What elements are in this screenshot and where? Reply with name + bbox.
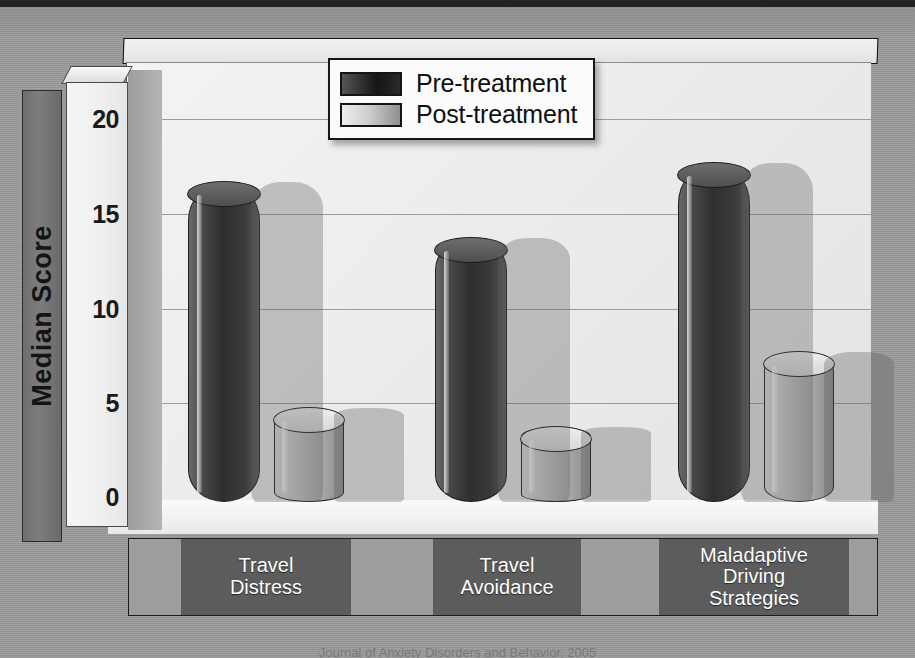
y-axis-title-slab: Median Score bbox=[22, 90, 62, 542]
category-pad bbox=[581, 539, 659, 615]
chart-floor bbox=[108, 500, 878, 534]
category-travel-avoidance[interactable]: Travel Avoidance bbox=[433, 539, 581, 615]
category-maladaptive-driving-strategies[interactable]: Maladaptive Driving Strategies bbox=[659, 539, 849, 615]
category-line-2: Distress bbox=[230, 577, 302, 599]
figure-source-caption: Journal of Anxiety Disorders and Behavio… bbox=[0, 645, 915, 658]
y-tick-20: 20 bbox=[92, 105, 119, 134]
y-tick-10: 10 bbox=[92, 295, 119, 324]
category-line-1: Travel bbox=[460, 555, 553, 577]
bar-chart-3d: 20 15 10 5 0 Median Score bbox=[18, 30, 878, 630]
y-axis-plate: 20 15 10 5 0 bbox=[66, 82, 128, 527]
category-line-3: Strategies bbox=[700, 588, 808, 610]
cylinder-gloss bbox=[687, 176, 693, 493]
category-line-2: Avoidance bbox=[460, 577, 553, 599]
legend-swatch-post-treatment bbox=[340, 103, 402, 127]
category-axis-band: Travel Distress Travel Avoidance Maladap… bbox=[128, 538, 878, 616]
bar-shadow bbox=[824, 352, 894, 502]
category-line-1: Maladaptive bbox=[700, 545, 808, 567]
category-pad bbox=[849, 539, 877, 615]
category-pad bbox=[351, 539, 433, 615]
bar-shadow bbox=[498, 238, 570, 502]
y-tick-0: 0 bbox=[106, 483, 119, 512]
category-line-2: Driving bbox=[700, 566, 808, 588]
legend: Pre-treatment Post-treatment bbox=[328, 58, 595, 140]
legend-label-post-treatment: Post-treatment bbox=[416, 100, 577, 129]
category-pad bbox=[129, 539, 181, 615]
cylinder-gloss bbox=[444, 251, 450, 493]
legend-item-pre-treatment[interactable]: Pre-treatment bbox=[340, 69, 577, 98]
bar-pre-travel-distress[interactable] bbox=[188, 182, 260, 502]
bar-pre-maladaptive-driving[interactable] bbox=[678, 163, 750, 502]
y-axis-title: Median Score bbox=[27, 225, 58, 407]
bar-pre-travel-avoidance[interactable] bbox=[435, 238, 507, 502]
bar-shadow bbox=[581, 427, 651, 502]
y-tick-15: 15 bbox=[92, 200, 119, 229]
category-line-1: Travel bbox=[230, 555, 302, 577]
bar-shadow bbox=[334, 408, 404, 502]
legend-swatch-pre-treatment bbox=[340, 72, 402, 96]
cylinder-gloss bbox=[197, 195, 203, 493]
legend-item-post-treatment[interactable]: Post-treatment bbox=[340, 100, 577, 129]
bar-shadow bbox=[251, 182, 323, 502]
bar-shadow bbox=[741, 163, 813, 502]
legend-label-pre-treatment: Pre-treatment bbox=[416, 69, 566, 98]
y-tick-5: 5 bbox=[106, 389, 119, 418]
category-travel-distress[interactable]: Travel Distress bbox=[181, 539, 351, 615]
